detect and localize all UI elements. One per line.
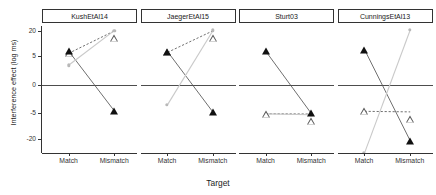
x-tick-label: Mismatch <box>100 157 129 164</box>
x-tick-mark <box>410 153 411 156</box>
facet-panel <box>42 26 137 153</box>
data-point-filled-triangle <box>307 110 315 117</box>
x-axis-title: Target <box>0 178 436 188</box>
series-lines <box>239 26 334 153</box>
data-point-open-triangle <box>209 34 217 41</box>
facet-strip-sturt03: Sturt03 <box>239 9 334 23</box>
facet-title: CunningsEtAl13 <box>360 13 410 20</box>
data-point-open-triangle <box>406 115 414 122</box>
series-line-gray-point <box>266 114 312 115</box>
facet-strip-cunningsetal13: CunningsEtAl13 <box>338 9 433 23</box>
y-tick-label: -5 <box>12 109 36 116</box>
x-axis-line <box>239 153 334 154</box>
data-point-open-triangle <box>360 108 368 115</box>
x-tick-mark <box>364 153 365 156</box>
y-tick-mark <box>38 56 41 57</box>
x-tick-label: Match <box>158 157 177 164</box>
x-tick-mark <box>213 153 214 156</box>
data-point-filled-triangle <box>262 48 270 55</box>
data-point-filled-triangle <box>163 48 171 55</box>
y-tick-mark <box>38 85 41 86</box>
series-line-filled-triangle <box>266 51 312 113</box>
x-tick-mark <box>311 153 312 156</box>
facet-strip-kushetal14: KushEtAl14 <box>42 9 137 23</box>
facet-title: KushEtAl14 <box>71 13 108 20</box>
data-point-filled-triangle <box>209 109 217 116</box>
x-axis-line <box>338 153 433 154</box>
y-tick-label: 20 <box>12 27 36 34</box>
y-tick-mark <box>38 113 41 114</box>
series-lines <box>338 26 433 153</box>
x-tick-label: Mismatch <box>198 157 227 164</box>
series-line-open-triangle <box>69 31 115 53</box>
data-point-filled-triangle <box>65 48 73 55</box>
x-tick-mark <box>69 153 70 156</box>
x-tick-label: Match <box>256 157 275 164</box>
facet-panel <box>239 26 334 153</box>
series-lines <box>141 26 236 153</box>
x-tick-label: Match <box>59 157 78 164</box>
x-tick-mark <box>114 153 115 156</box>
facet-title: JaegerEtAl15 <box>167 13 209 20</box>
x-tick-label: Mismatch <box>395 157 424 164</box>
x-axis-line <box>141 153 236 154</box>
data-point-filled-triangle <box>406 137 414 144</box>
x-tick-label: Match <box>355 157 374 164</box>
chart-root: Interference effect (log ms) Target 2050… <box>0 0 436 195</box>
y-tick-label: 5 <box>12 52 36 59</box>
series-lines <box>42 26 137 153</box>
x-axis-line <box>42 153 137 154</box>
data-point-filled-triangle <box>360 46 368 53</box>
series-line-filled-triangle <box>364 50 410 141</box>
y-tick-mark <box>38 139 41 140</box>
series-line-filled-triangle <box>167 52 213 113</box>
data-point-open-triangle <box>110 35 118 42</box>
series-line-open-triangle <box>364 111 410 112</box>
y-tick-label: -20 <box>12 135 36 142</box>
x-tick-mark <box>167 153 168 156</box>
facet-panel <box>141 26 236 153</box>
x-tick-label: Mismatch <box>297 157 326 164</box>
data-point-open-triangle <box>307 118 315 125</box>
facet-strip-jaegeretal15: JaegerEtAl15 <box>141 9 236 23</box>
facet-title: Sturt03 <box>275 13 298 20</box>
data-point-open-triangle <box>262 110 270 117</box>
x-tick-mark <box>266 153 267 156</box>
y-tick-label: 0 <box>12 81 36 88</box>
data-point-filled-triangle <box>110 107 118 114</box>
series-line-gray-point <box>69 31 115 66</box>
facet-panel <box>338 26 433 153</box>
y-tick-mark <box>38 31 41 32</box>
series-line-gray-point <box>364 30 410 153</box>
